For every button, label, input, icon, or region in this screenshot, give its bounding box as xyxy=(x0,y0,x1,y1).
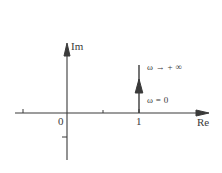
real-axis-label: Re xyxy=(197,117,209,128)
nyquist-locus-direction-arrowhead xyxy=(135,79,143,93)
nyquist-plot-figure: Im Re 0 1 ω → + ∞ ω = 0 xyxy=(0,0,222,173)
annotation-omega-zero: ω = 0 xyxy=(147,96,169,105)
real-tick-label-one: 1 xyxy=(136,116,142,127)
origin-label: 0 xyxy=(58,116,64,127)
annotation-omega-infinity: ω → + ∞ xyxy=(147,63,182,72)
plot-canvas xyxy=(0,0,222,173)
imaginary-axis-arrowhead xyxy=(64,43,70,56)
imaginary-axis-label: Im xyxy=(71,41,83,52)
